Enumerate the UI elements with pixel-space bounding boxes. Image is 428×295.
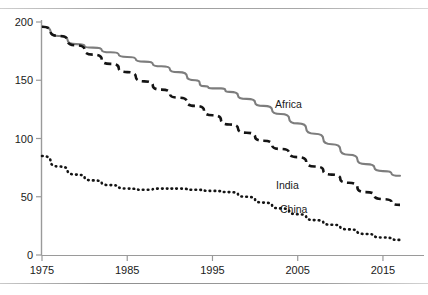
series-label-india: India [276, 179, 299, 191]
y-tick-label: 150 [15, 74, 33, 86]
x-tick-label: 1995 [200, 264, 224, 276]
y-tick-label: 0 [27, 249, 33, 261]
y-axis-ticks: 050100150200 [15, 16, 42, 261]
figure-container: 050100150200 19751985199520052015 Africa… [0, 0, 428, 295]
series-line-india [42, 27, 400, 205]
series-line-china [42, 156, 400, 240]
x-axis-ticks: 19751985199520052015 [30, 256, 395, 277]
series-label-africa: Africa [275, 98, 302, 110]
x-tick-label: 1975 [30, 264, 54, 276]
y-tick-label: 50 [21, 191, 33, 203]
y-tick-label: 100 [15, 133, 33, 145]
series-line-africa [42, 27, 400, 176]
x-tick-label: 1985 [115, 264, 139, 276]
series-label-china: China [280, 203, 308, 215]
x-tick-label: 2005 [285, 264, 309, 276]
line-chart: 050100150200 19751985199520052015 Africa… [0, 0, 428, 295]
y-tick-label: 200 [15, 16, 33, 28]
x-tick-label: 2015 [371, 264, 395, 276]
